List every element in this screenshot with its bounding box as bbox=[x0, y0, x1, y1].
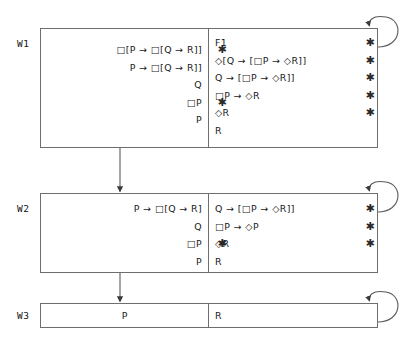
formula-row: P bbox=[41, 253, 208, 271]
formula-row: □P → ◇R ✱ bbox=[208, 87, 379, 105]
world-label-w2: W2 bbox=[17, 203, 29, 214]
world-box-w1: □[P → □[Q → R]] ✱ P → □[Q → R]] Q □P ✱ P… bbox=[40, 28, 378, 148]
marker-asterisk: ✱ bbox=[365, 218, 375, 236]
w2-right-column: Q → [□P → ◇R]] ✱ □P → ◇P ✱ ◇R ✱ R bbox=[208, 194, 379, 272]
formula-row: Q bbox=[41, 218, 208, 236]
formula-row: □P → ◇P ✱ bbox=[208, 218, 379, 236]
formula-row: P → □[Q → R]] bbox=[41, 59, 208, 77]
formula-text: R bbox=[208, 122, 379, 140]
formula-text: □P bbox=[41, 94, 208, 112]
formula-row: P bbox=[41, 111, 208, 129]
formula-text: □P bbox=[41, 235, 208, 253]
formula-row: □[P → □[Q → R]] ✱ bbox=[41, 41, 208, 59]
w1-left-column: □[P → □[Q → R]] ✱ P → □[Q → R]] Q □P ✱ P bbox=[41, 29, 208, 147]
world-label-w1: W1 bbox=[17, 38, 29, 49]
formula-text: P → □[Q → R]] bbox=[41, 59, 208, 77]
world-label-w3: W3 bbox=[17, 310, 29, 321]
formula-text: R bbox=[208, 253, 379, 271]
formula-row: R bbox=[208, 122, 379, 140]
formula-row: ◇R ✱ bbox=[208, 235, 379, 253]
marker-asterisk: ✱ bbox=[365, 200, 375, 218]
marker-asterisk: ✱ bbox=[365, 87, 375, 105]
formula-row: Q bbox=[41, 76, 208, 94]
formula-row: ◇[Q → [□P → ◇R]] ✱ bbox=[208, 52, 379, 70]
w3-left-column: P bbox=[41, 304, 208, 327]
world-box-w3: P R bbox=[40, 303, 378, 328]
marker-asterisk: ✱ bbox=[365, 69, 375, 87]
formula-text: P → □[Q → R] bbox=[41, 200, 208, 218]
formula-row: R bbox=[208, 253, 379, 271]
w1-right-column: F1 ✱ ◇[Q → [□P → ◇R]] ✱ Q → [□P → ◇R]] ✱… bbox=[208, 29, 379, 147]
formula-text: Q → [□P → ◇R]] bbox=[208, 69, 379, 87]
formula-text: Q → [□P → ◇R]] bbox=[208, 200, 379, 218]
modal-logic-diagram: W1 □[P → □[Q → R]] ✱ P → □[Q → R]] Q □P … bbox=[0, 0, 413, 344]
formula-text: □[P → □[Q → R]] bbox=[41, 41, 208, 59]
formula-text: Q bbox=[41, 218, 208, 236]
formula-row: ◇R ✱ bbox=[208, 104, 379, 122]
formula-row: Q → [□P → ◇R]] ✱ bbox=[208, 69, 379, 87]
w2-left-column: P → □[Q → R] Q □P ✱ P bbox=[41, 194, 208, 272]
world-box-w2: P → □[Q → R] Q □P ✱ P Q → [□P → ◇R]] ✱ □… bbox=[40, 193, 378, 273]
formula-row: P → □[Q → R] bbox=[41, 200, 208, 218]
formula-text: Q bbox=[41, 76, 208, 94]
marker-asterisk: ✱ bbox=[365, 104, 375, 122]
formula-row: □P ✱ bbox=[41, 235, 208, 253]
marker-asterisk: ✱ bbox=[365, 52, 375, 70]
formula-text: ◇[Q → [□P → ◇R]] bbox=[208, 52, 379, 70]
formula-row: F1 ✱ bbox=[208, 34, 379, 52]
marker-asterisk: ✱ bbox=[365, 34, 375, 52]
formula-row: □P ✱ bbox=[41, 94, 208, 112]
formula-text: R bbox=[215, 310, 222, 321]
formula-text: □P → ◇R bbox=[208, 87, 379, 105]
marker-asterisk: ✱ bbox=[365, 235, 375, 253]
w3-right-column: R bbox=[208, 304, 379, 327]
formula-text: ◇R bbox=[208, 235, 379, 253]
formula-row: Q → [□P → ◇R]] ✱ bbox=[208, 200, 379, 218]
formula-text: P bbox=[41, 111, 208, 129]
formula-text: □P → ◇P bbox=[208, 218, 379, 236]
formula-text: P bbox=[41, 253, 208, 271]
formula-text: ◇R bbox=[208, 104, 379, 122]
formula-text: F1 bbox=[208, 34, 379, 52]
formula-text: P bbox=[122, 310, 128, 321]
